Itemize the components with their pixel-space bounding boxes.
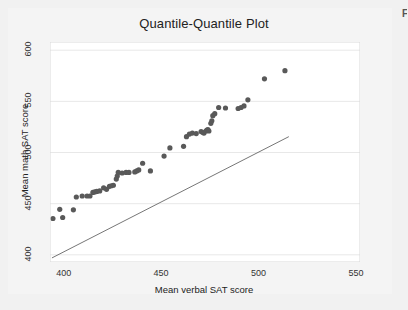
x-axis-tick-label: 400 <box>44 268 84 278</box>
x-axis-tick-label: 550 <box>336 268 376 278</box>
scatter-point <box>148 168 153 173</box>
x-axis-label: Mean verbal SAT score <box>0 284 408 295</box>
scatter-point <box>194 131 199 136</box>
scatter-point <box>216 105 221 110</box>
scatter-point <box>126 170 131 175</box>
corner-mark-text: F <box>402 9 407 19</box>
x-axis-tick-label: 500 <box>239 268 279 278</box>
scatter-point <box>57 207 62 212</box>
plot-svg <box>50 42 360 262</box>
y-axis-tick-label: 600 <box>23 35 33 63</box>
scatter-point <box>140 161 145 166</box>
scatter-point <box>71 207 76 212</box>
scatter-point <box>282 68 287 73</box>
scatter-point <box>241 103 246 108</box>
y-axis-label: Mean math SAT score <box>19 81 30 221</box>
scatter-point <box>262 76 267 81</box>
plot-background <box>50 42 360 262</box>
plot-area <box>50 42 360 262</box>
scatter-point <box>245 97 250 102</box>
scatter-point <box>80 193 85 198</box>
scatter-point <box>223 105 228 110</box>
scatter-point <box>206 128 211 133</box>
scatter-point <box>209 118 214 123</box>
scatter-point <box>161 153 166 158</box>
scatter-point <box>60 215 65 220</box>
chart-figure: Quantile-Quantile Plot F 400450500550600… <box>0 0 408 310</box>
scatter-point <box>167 145 172 150</box>
scatter-point <box>212 111 217 116</box>
scatter-point <box>50 216 55 221</box>
scatter-point <box>136 167 141 172</box>
scatter-point <box>181 144 186 149</box>
scatter-point <box>111 183 116 188</box>
chart-title: Quantile-Quantile Plot <box>0 16 408 31</box>
y-axis-tick-label: 400 <box>23 240 33 268</box>
scatter-point <box>74 194 79 199</box>
x-axis-tick-label: 450 <box>141 268 181 278</box>
